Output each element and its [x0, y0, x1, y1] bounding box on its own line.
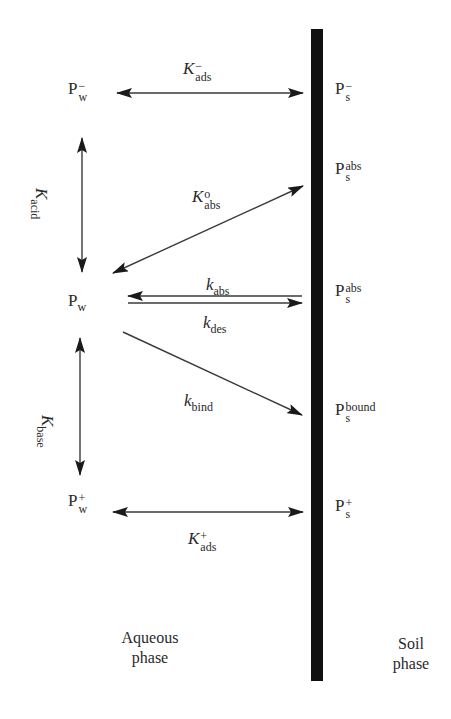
species-base: P	[335, 79, 344, 98]
species-sup: +	[78, 492, 87, 502]
constant-sup: −	[195, 60, 211, 70]
species-pw-plus: P+w	[68, 492, 87, 515]
species-sup: −	[345, 80, 352, 90]
constant-sub: ads	[200, 541, 216, 553]
constant-base: k	[203, 313, 211, 332]
label-k-ads-plus: K+ads	[188, 530, 216, 553]
phase-line-1: Aqueous	[100, 628, 200, 648]
constant-sub: ads	[195, 71, 211, 83]
species-ps-bound: Pbounds	[335, 401, 375, 424]
species-base: P	[335, 496, 344, 515]
phase-line-1: Soil	[371, 634, 451, 654]
constant-sub: abs	[214, 284, 230, 298]
constant-sup: o	[204, 188, 220, 198]
constant-base: K	[38, 415, 57, 426]
label-k-bind: kbind	[184, 392, 213, 409]
species-sup: −	[78, 80, 87, 90]
species-pw: Pw	[68, 292, 86, 309]
species-base: P	[335, 400, 344, 419]
constant-base: k	[184, 391, 192, 410]
constant-base: K	[188, 529, 199, 548]
species-ps-minus: P−s	[335, 80, 352, 103]
label-k-ads-minus: K−ads	[183, 60, 211, 83]
label-k-acid: Kacid	[33, 188, 50, 219]
species-base: P	[335, 281, 344, 300]
label-k-abs: kabs	[206, 276, 230, 293]
constant-sub: des	[211, 322, 227, 336]
constant-base: K	[32, 188, 51, 199]
aqueous-phase-label: Aqueous phase	[100, 628, 200, 668]
species-pw-minus: P−w	[68, 80, 87, 103]
species-sup: abs	[345, 160, 361, 170]
species-ps-abs-outer: Pabss	[335, 160, 361, 183]
species-base: P	[335, 159, 344, 178]
constant-base: K	[183, 59, 194, 78]
species-sub: s	[345, 171, 361, 183]
species-sub: w	[78, 503, 87, 515]
species-base: P	[68, 79, 77, 98]
arrows-layer	[0, 0, 451, 719]
species-sup: abs	[345, 282, 361, 292]
constant-sup: +	[200, 530, 216, 540]
species-sub: w	[78, 91, 87, 103]
species-ps-plus: P+s	[335, 497, 352, 520]
phase-line-2: phase	[100, 648, 200, 668]
constant-sub: acid	[28, 199, 42, 219]
sorption-diagram: P−w Pw P+w P−s Pabss Pabss Pbounds P+s K…	[0, 0, 451, 719]
constant-sub: base	[34, 426, 48, 447]
species-base: P	[68, 491, 77, 510]
species-sub: s	[345, 91, 352, 103]
species-sup: +	[345, 497, 352, 507]
phase-line-2: phase	[371, 654, 451, 674]
species-sub: s	[345, 508, 352, 520]
species-sup: bound	[345, 401, 375, 411]
soil-phase-label: Soil phase	[371, 634, 451, 674]
species-sub: s	[345, 412, 375, 424]
species-ps-abs-inner: Pabss	[335, 282, 361, 305]
constant-base: K	[192, 187, 203, 206]
constant-sub: bind	[192, 400, 213, 414]
soil-water-interface-bar	[311, 29, 323, 681]
label-k-abs-zero: Koabs	[192, 188, 220, 211]
constant-base: k	[206, 275, 214, 294]
species-sub: w	[77, 300, 86, 314]
label-k-des: kdes	[203, 314, 227, 331]
constant-sub: abs	[204, 199, 220, 211]
label-k-base: Kbase	[39, 415, 56, 448]
species-sub: s	[345, 293, 361, 305]
